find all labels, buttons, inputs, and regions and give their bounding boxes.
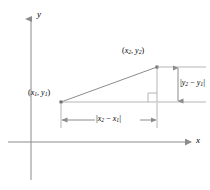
point-p1-label: (x1, y1) [28, 89, 50, 98]
dy-close-bar: | [203, 77, 205, 87]
dx-close-bar: | [119, 113, 121, 123]
dx-operator: − [104, 114, 113, 123]
p2-close-paren: ) [142, 46, 145, 55]
dy-operator: − [188, 78, 197, 87]
x-axis-label: x [196, 136, 200, 145]
horizontal-dimension-label: |x2 − x1| [96, 114, 121, 124]
vertical-dimension-label: |y2 − y1| [180, 78, 205, 88]
p1-close-paren: ) [48, 88, 51, 97]
right-angle-square [148, 93, 157, 102]
point-p2-label: (x2, y2) [122, 47, 144, 56]
y-axis-label: y [37, 10, 41, 19]
hypotenuse-segment [61, 67, 157, 102]
distance-formula-diagram: y x (x1, y1) (x2, y2) |x2 − x1| |y2 − y1… [0, 0, 210, 190]
